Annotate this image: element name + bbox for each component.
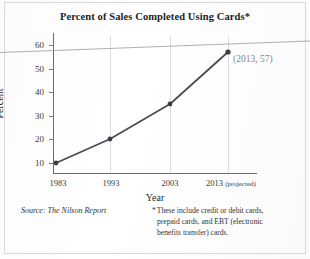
data-point-1993 — [108, 137, 113, 142]
data-point-2013 — [225, 49, 230, 54]
footnote-line-3: benefits transfer) cards. — [152, 228, 288, 239]
data-point-annotation: (2013, 57) — [233, 54, 273, 64]
data-point-1983 — [54, 161, 59, 166]
footnote-marker: * — [152, 206, 156, 215]
source-note: Source: The Nilson Report — [21, 206, 106, 215]
data-line-percent-of-sales — [56, 52, 228, 163]
footnote-note: *These include credit or debit cards, pr… — [152, 206, 288, 238]
data-point-2003 — [168, 102, 173, 107]
footnote-line-2: prepaid cards, and EBT (electronic — [152, 217, 288, 228]
chart-figure: Percent of Sales Completed Using Cards* … — [0, 0, 310, 259]
scan-artifact-line — [0, 41, 310, 53]
footnote-line-1: These include credit or debit cards, — [157, 206, 264, 215]
